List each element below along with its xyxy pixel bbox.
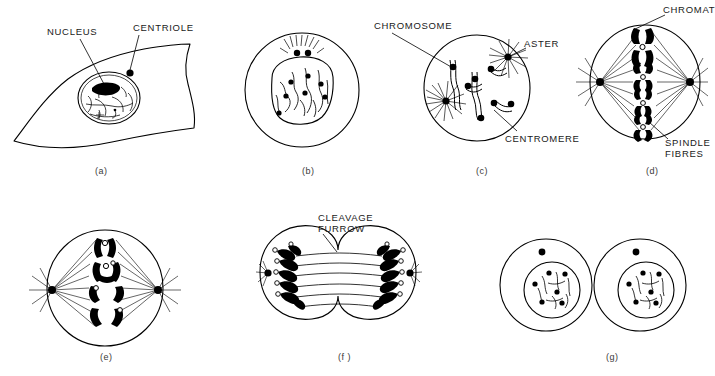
cell-membrane-e (47, 230, 163, 346)
panel-a (14, 44, 195, 148)
caption-panel-g: (g) (606, 352, 619, 362)
panel-e (29, 230, 181, 346)
label-centromere: CENTROMERE (505, 133, 580, 144)
label-aster: ASTER (524, 38, 559, 49)
nuclear-envelope-a (78, 72, 140, 124)
label-cleavage-furrow-line1: CLEAVAGE (318, 212, 373, 223)
panel-f (256, 226, 422, 320)
centriole-a (126, 69, 133, 76)
label-cleavage-furrow-line2: FURROW (318, 223, 365, 234)
label-nucleus: NUCLEUS (47, 26, 97, 37)
nuclear-envelope-g-right (618, 262, 674, 318)
caption-panel-e: (e) (100, 352, 113, 362)
chromatin-granule-a (114, 109, 117, 112)
label-chromatid: CHROMAT (663, 4, 715, 15)
caption-panel-b: (b) (302, 166, 315, 176)
centriole-g-right (633, 249, 640, 256)
panel-g (500, 239, 686, 331)
centriole-g-left (539, 249, 546, 256)
panel-d (576, 25, 708, 142)
panel-c (424, 35, 530, 141)
label-chromosome: CHROMOSOME (374, 20, 452, 31)
panel-b (245, 33, 359, 147)
label-spindle-fibres-line2: FIBRES (665, 148, 704, 159)
caption-panel-d: (d) (646, 166, 659, 176)
caption-panel-f: (f ) (338, 352, 351, 362)
label-spindle-fibres-line1: SPINDLE (665, 137, 711, 148)
caption-panel-a: (a) (95, 166, 108, 176)
nuclear-envelope-g-left (524, 262, 580, 318)
label-centriole: CENTRIOLE (133, 22, 194, 33)
caption-panel-c: (c) (476, 166, 488, 176)
